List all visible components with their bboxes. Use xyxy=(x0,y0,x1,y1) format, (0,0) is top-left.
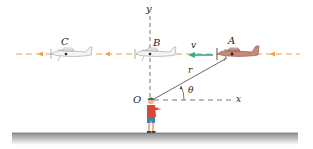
boy-arm xyxy=(154,107,159,110)
y-axis-label: y xyxy=(145,3,152,14)
plane-b xyxy=(135,47,176,61)
boy-leg-left xyxy=(148,123,150,131)
plane-b-label: B xyxy=(152,37,160,48)
path-arrow-left-1 xyxy=(38,52,43,57)
theta-label: θ xyxy=(188,85,194,95)
x-axis-label: x xyxy=(236,94,241,104)
ground xyxy=(12,133,298,145)
plane-a xyxy=(217,46,259,61)
boy-hand xyxy=(158,108,161,111)
boy-shirt xyxy=(147,105,156,117)
kinematics-diagram: y x O r θ v C B A xyxy=(0,0,313,149)
velocity-label: v xyxy=(191,40,196,50)
boy-cap xyxy=(148,97,155,100)
path-arrow-right xyxy=(270,52,275,57)
radius-label: r xyxy=(188,65,193,75)
boy-leg-right xyxy=(152,123,154,131)
origin-label: O xyxy=(133,94,141,105)
path-arrow-left-2 xyxy=(105,52,110,57)
boy-shoe-left xyxy=(147,131,151,133)
plane-a-label: A xyxy=(227,35,235,46)
boy-shorts xyxy=(147,117,155,123)
boy-figure xyxy=(147,97,161,133)
velocity-arrowhead xyxy=(188,52,195,58)
plane-c-label: C xyxy=(61,36,69,47)
boy-shoe-right xyxy=(152,131,156,133)
plane-c xyxy=(51,47,92,61)
